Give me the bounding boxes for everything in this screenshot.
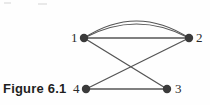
edge-2-4 (86, 38, 189, 89)
node-4 (82, 85, 90, 93)
node-2 (185, 34, 193, 42)
node-3 (163, 85, 171, 93)
node-1 (80, 34, 88, 42)
node-label-3: 3 (175, 82, 182, 95)
node-label-2: 2 (196, 31, 203, 44)
node-label-4: 4 (73, 82, 80, 95)
figure-caption: Figure 6.1 (3, 81, 66, 96)
edge-1-2-arc-lower (84, 24, 189, 38)
node-label-1: 1 (71, 31, 78, 44)
edge-1-3 (84, 38, 167, 89)
figure-container: 1 2 3 4 Figure 6.1 (0, 0, 210, 105)
